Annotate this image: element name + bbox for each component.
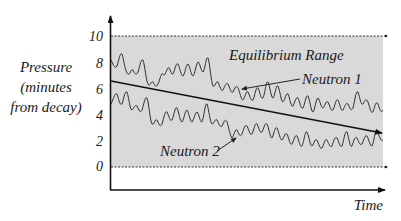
- y-tick-2: 2: [96, 134, 103, 149]
- y-tick-8: 8: [96, 56, 103, 71]
- y-tick-6: 6: [96, 82, 103, 97]
- x-axis-label: Time: [354, 197, 384, 213]
- y-tick-10: 10: [89, 29, 103, 44]
- neutron-2-label: Neutron 2: [159, 143, 220, 159]
- equilibrium-range-label: Equilibrium Range: [228, 47, 344, 63]
- y-tick-0: 0: [96, 159, 103, 174]
- chart: 10 8 6 4 2 0 Equilibrium Range Neutron 1…: [0, 0, 401, 221]
- y-tick-4: 4: [96, 108, 103, 123]
- neutron-1-label: Neutron 1: [301, 71, 362, 87]
